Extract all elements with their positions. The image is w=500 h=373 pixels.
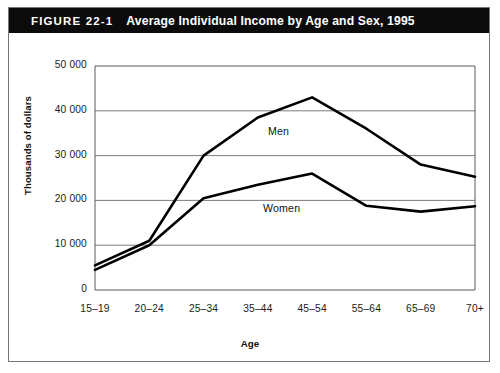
y-tick-label: 10 000	[31, 238, 87, 249]
y-tick-label: 50 000	[31, 59, 87, 70]
x-axis-title: Age	[0, 338, 500, 349]
x-tick-label: 70+	[445, 303, 500, 314]
x-tick-label: 65–69	[391, 303, 451, 314]
x-tick-label: 35–44	[228, 303, 288, 314]
y-tick-label: 0	[31, 283, 87, 294]
figure-root: FIGURE 22-1 Average Individual Income by…	[0, 0, 500, 373]
y-tick-label: 40 000	[31, 104, 87, 115]
x-tick-label: 15–19	[65, 303, 125, 314]
series-lines-group	[95, 97, 475, 269]
series-annotation-women: Women	[263, 202, 300, 214]
chart-plot-area: Thousands of dollars 010 00020 00030 000…	[0, 0, 500, 373]
x-tick-label: 25–34	[174, 303, 234, 314]
line-chart-svg	[0, 0, 500, 373]
x-tick-label: 45–54	[282, 303, 342, 314]
y-tick-label: 30 000	[31, 149, 87, 160]
x-tick-label: 20–24	[119, 303, 179, 314]
series-line-women	[95, 174, 475, 270]
series-annotation-men: Men	[268, 125, 289, 137]
y-tick-label: 20 000	[31, 193, 87, 204]
x-tick-label: 55–64	[336, 303, 396, 314]
series-line-men	[95, 97, 475, 265]
